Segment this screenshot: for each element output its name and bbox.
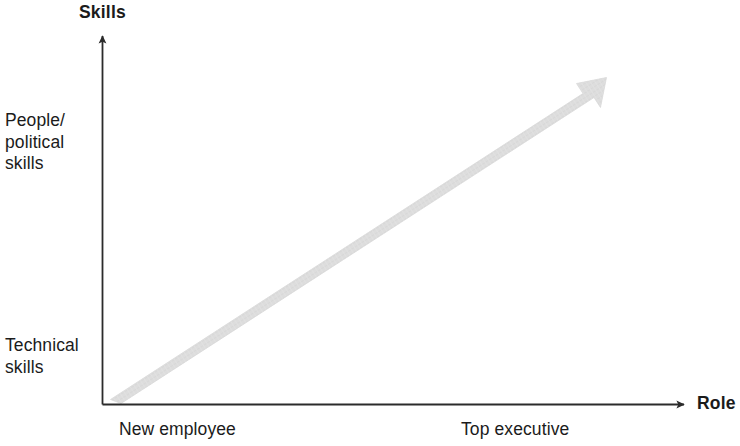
x-axis-tick-label-right: Top executive [461, 419, 569, 441]
y-axis-tick-label-low: Technical skills [5, 335, 79, 378]
skills-role-diagram: Skills Role People/ political skills Tec… [0, 0, 740, 446]
diagram-canvas [0, 0, 740, 446]
x-axis-tick-label-left: New employee [119, 419, 236, 441]
trend-arrow [111, 78, 607, 404]
y-axis-title: Skills [79, 2, 126, 24]
x-axis-title: Role [697, 393, 736, 415]
y-axis-tick-label-high: People/ political skills [5, 110, 65, 175]
